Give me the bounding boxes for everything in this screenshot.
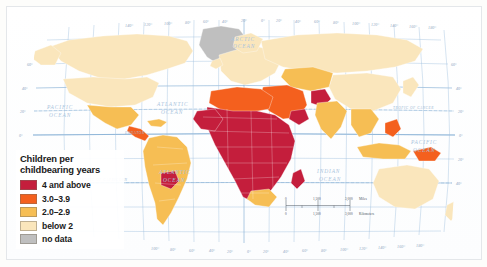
lon-bot-0: 100° — [151, 246, 159, 251]
lon-bot-13: 160° — [397, 244, 405, 249]
lat-right-1: 40° — [456, 86, 462, 91]
legend-label-3-0-3-9: 3.0–3.9 — [42, 194, 70, 204]
lon-top-9: 40° — [295, 19, 301, 24]
lon-bot-8: 60° — [302, 248, 308, 253]
ocean-label-arctic-line1: ARCTIC — [230, 36, 255, 42]
legend-title-line1: Children per — [20, 153, 73, 164]
legend-swatch-no-data — [20, 234, 37, 244]
lon-top-12: 100° — [352, 21, 360, 26]
lon-top-5: 40° — [222, 19, 228, 24]
lat-right-2: 20° — [458, 109, 464, 114]
scalebar-km-tick-0: 0 — [285, 212, 287, 216]
world-map[interactable]: ARCTIC OCEAN PACIFIC OCEAN ATLANTIC OCEA… — [6, 6, 482, 260]
lon-top-11: 80° — [333, 20, 339, 25]
legend-label-2-0-2-9: 2.0–2.9 — [42, 207, 70, 217]
map-page: ARCTIC OCEAN PACIFIC OCEAN ATLANTIC OCEA… — [0, 0, 487, 267]
legend-item-4-and-above[interactable]: 4 and above — [20, 179, 121, 192]
lon-bot-14: 180° — [416, 243, 424, 248]
lon-bot-2: 60° — [189, 248, 195, 253]
lon-top-4: 60° — [203, 19, 209, 24]
legend-item-below-2[interactable]: below 2 — [20, 219, 121, 232]
legend-label-no-data: no data — [42, 234, 72, 244]
lon-top-1: 120° — [144, 22, 152, 27]
legend-swatch-below-2 — [20, 221, 37, 231]
legend-item-2-0-2-9[interactable]: 2.0–2.9 — [20, 206, 121, 219]
lat-right-0: 60° — [451, 62, 457, 67]
lat-right-3: 0° — [459, 133, 463, 138]
legend-title-line2: childbearing years — [20, 164, 100, 175]
lon-bot-12: 140° — [378, 245, 386, 250]
ocean-label-arctic-line2: OCEAN — [233, 43, 255, 49]
ocean-label-atlantic-s-line1: ATLANTIC — [158, 169, 191, 175]
lon-top-14: 140° — [390, 23, 398, 28]
lon-bot-7: 40° — [283, 249, 289, 254]
ocean-label-indian-line1: INDIAN — [316, 168, 340, 174]
lon-top-3: 80° — [185, 20, 191, 25]
lon-bot-6: 20° — [263, 249, 269, 254]
lon-bot-4: 20° — [227, 249, 233, 254]
lat-right-4: 20° — [458, 157, 464, 162]
lon-top-8: 20° — [276, 18, 282, 23]
tropic-of-cancer-label: TROPIC OF CANCER — [393, 106, 434, 110]
lon-bot-11: 120° — [359, 246, 367, 251]
legend-label-below-2: below 2 — [42, 221, 73, 231]
legend-swatch-2-0-2-9 — [20, 207, 37, 217]
ocean-label-indian-line2: OCEAN — [319, 176, 341, 182]
ocean-label-atlantic-n-line1: ATLANTIC — [156, 101, 189, 107]
lon-top-13: 120° — [371, 22, 379, 27]
ocean-label-atlantic-n-line2: OCEAN — [161, 109, 183, 115]
ocean-label-pacific-e-line2: OCEAN — [413, 147, 435, 153]
lon-bot-3: 40° — [209, 248, 215, 253]
legend-item-3-0-3-9[interactable]: 3.0–3.9 — [20, 192, 121, 205]
scalebar-miles-label: Miles — [359, 197, 367, 201]
lat-left-3: 0° — [19, 133, 23, 138]
lon-bot-9: 80° — [321, 248, 327, 253]
legend-swatch-4-and-above — [20, 180, 37, 190]
lon-top-2: 100° — [164, 21, 172, 26]
ocean-label-atlantic-s-line2: OCEAN — [163, 177, 185, 183]
lon-bot-1: 80° — [170, 247, 176, 252]
scalebar-miles-tick-0: 0 — [285, 197, 287, 201]
equator-label: EQUATOR — [124, 131, 145, 135]
map-legend: Children per childbearing years 4 and ab… — [16, 150, 124, 249]
legend-swatch-3-0-3-9 — [20, 194, 37, 204]
legend-title: Children per childbearing years — [20, 153, 121, 176]
lon-top-7: 0° — [261, 18, 265, 23]
lon-top-16: 180° — [428, 25, 436, 30]
lon-top-10: 60° — [314, 19, 320, 24]
lat-right-5: 40° — [456, 181, 462, 186]
ocean-label-pacific-w-line2: OCEAN — [49, 112, 71, 118]
lon-bot-10: 100° — [340, 247, 348, 252]
legend-item-no-data[interactable]: no data — [20, 233, 121, 246]
legend-label-4-and-above: 4 and above — [42, 180, 91, 190]
lon-top-6: 20° — [241, 18, 247, 23]
lon-top-0: 140° — [125, 23, 133, 28]
scalebar-km-label: Kilometers — [359, 212, 375, 216]
lon-top-15: 160° — [409, 24, 417, 29]
lon-bot-5: 0° — [247, 249, 251, 254]
lat-left-0: 60° — [27, 62, 33, 67]
ocean-label-pacific-w-line1: PACIFIC — [46, 104, 73, 110]
lat-left-1: 40° — [22, 86, 28, 91]
lat-left-2: 20° — [20, 109, 26, 114]
ocean-label-pacific-e-line1: PACIFIC — [410, 139, 437, 145]
